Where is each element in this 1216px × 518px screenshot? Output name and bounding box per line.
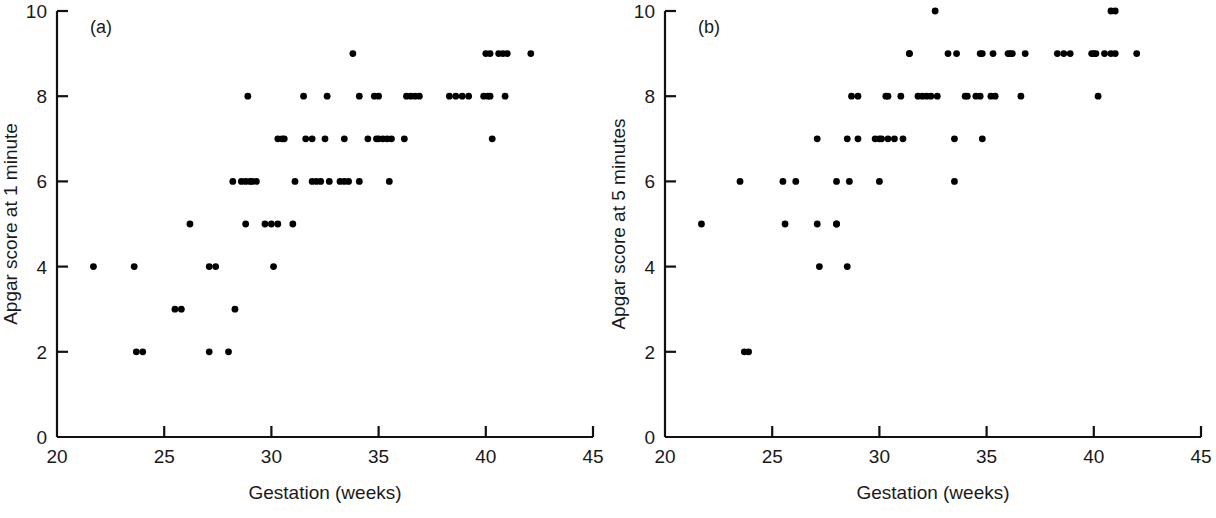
data-point [1022, 50, 1029, 57]
data-point [232, 306, 239, 313]
data-point [416, 93, 423, 100]
data-point [951, 135, 958, 142]
data-point [979, 135, 986, 142]
panel-a-scatter: 0246810202530354045Gestation (weeks)Apga… [0, 0, 608, 518]
y-tick-label: 10 [634, 1, 655, 22]
data-point [1093, 50, 1100, 57]
data-point [375, 93, 382, 100]
data-point [897, 93, 904, 100]
panel-label: (b) [698, 17, 720, 37]
data-point [345, 178, 352, 185]
data-point [1133, 50, 1140, 57]
y-tick-label: 10 [26, 1, 47, 22]
data-point [1060, 50, 1067, 57]
data-point [356, 178, 363, 185]
y-tick-label: 4 [644, 257, 655, 278]
data-point [253, 178, 260, 185]
y-tick-label: 2 [36, 342, 47, 363]
data-point [833, 178, 840, 185]
data-point [386, 178, 393, 185]
data-point [885, 93, 892, 100]
data-point [388, 135, 395, 142]
data-point [844, 263, 851, 270]
data-point [131, 263, 138, 270]
data-point [855, 93, 862, 100]
data-point [885, 135, 892, 142]
data-point [934, 93, 941, 100]
data-point [229, 178, 236, 185]
data-point [206, 348, 213, 355]
data-point [979, 50, 986, 57]
data-point [206, 263, 213, 270]
data-point [1009, 50, 1016, 57]
data-point [178, 306, 185, 313]
x-tick-label: 45 [1190, 446, 1211, 467]
data-point [274, 221, 281, 228]
data-point [1112, 50, 1119, 57]
data-point [270, 263, 277, 270]
data-point [324, 93, 331, 100]
x-tick-label: 40 [1083, 446, 1104, 467]
data-point [465, 93, 472, 100]
data-point [964, 93, 971, 100]
data-point [317, 178, 324, 185]
data-point [487, 93, 494, 100]
x-axis-title: Gestation (weeks) [248, 482, 401, 503]
data-point [814, 221, 821, 228]
data-point [90, 263, 97, 270]
x-tick-label: 25 [154, 446, 175, 467]
data-point [139, 348, 146, 355]
y-tick-label: 8 [644, 86, 655, 107]
x-tick-label: 40 [475, 446, 496, 467]
data-point [977, 93, 984, 100]
y-axis-title: Apgar score at 5 minutes [608, 118, 629, 329]
data-point [945, 50, 952, 57]
data-point [242, 221, 249, 228]
data-point [927, 93, 934, 100]
y-tick-label: 4 [36, 257, 47, 278]
data-point [349, 50, 356, 57]
plot-canvas-b: 0246810202530354045Gestation (weeks)Apga… [608, 0, 1216, 518]
data-point [792, 178, 799, 185]
data-point [172, 306, 179, 313]
data-point [951, 178, 958, 185]
data-point [848, 93, 855, 100]
data-point [1067, 50, 1074, 57]
data-point [992, 93, 999, 100]
x-axis-title: Gestation (weeks) [856, 482, 1009, 503]
y-tick-label: 6 [644, 171, 655, 192]
x-tick-label: 35 [976, 446, 997, 467]
data-point [268, 221, 275, 228]
data-point [932, 8, 939, 15]
x-tick-label: 20 [46, 446, 67, 467]
data-point [1095, 93, 1102, 100]
data-point [364, 135, 371, 142]
x-tick-label: 20 [654, 446, 675, 467]
data-point [816, 263, 823, 270]
y-tick-label: 6 [36, 171, 47, 192]
y-axis-title: Apgar score at 1 minute [0, 123, 21, 325]
data-point [737, 178, 744, 185]
x-tick-label: 30 [869, 446, 890, 467]
y-tick-label: 0 [644, 427, 655, 448]
y-tick-label: 8 [36, 86, 47, 107]
x-tick-label: 35 [368, 446, 389, 467]
data-point [187, 221, 194, 228]
data-point [487, 50, 494, 57]
data-point [900, 135, 907, 142]
data-point [1112, 8, 1119, 15]
data-point [356, 93, 363, 100]
data-point [262, 221, 269, 228]
data-point [527, 50, 534, 57]
y-tick-label: 0 [36, 427, 47, 448]
x-tick-label: 25 [762, 446, 783, 467]
data-point-group [698, 8, 1140, 356]
data-point [401, 135, 408, 142]
y-tick-label: 2 [644, 342, 655, 363]
panel-label: (a) [90, 17, 112, 37]
data-point [990, 50, 997, 57]
data-point [855, 135, 862, 142]
data-point-group [90, 50, 534, 355]
data-point [300, 93, 307, 100]
panel-b-scatter: 0246810202530354045Gestation (weeks)Apga… [608, 0, 1216, 518]
